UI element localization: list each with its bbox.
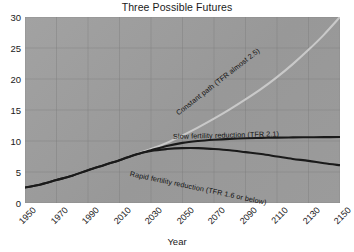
y-axis-tick: 0	[16, 198, 21, 209]
chart-title: Three Possible Futures	[0, 1, 354, 13]
y-axis-tick: 15	[10, 105, 21, 116]
x-axis-title: Year	[0, 236, 354, 247]
x-axis-tick: 1990	[80, 205, 101, 226]
y-axis-tick: 10	[10, 136, 21, 147]
x-axis-tick: 2070	[206, 205, 227, 226]
y-axis-tick: 30	[10, 12, 21, 23]
x-axis-tick: 2010	[111, 205, 132, 226]
x-axis-tick: 2130	[300, 205, 321, 226]
x-axis-tick: 2110	[269, 205, 290, 226]
plot-area: Constant path (TFR almost 2.5) Slow fert…	[25, 17, 340, 203]
x-axis-tick: 2030	[143, 205, 164, 226]
x-axis-tick: 1970	[48, 205, 69, 226]
y-axis-tick: 20	[10, 74, 21, 85]
x-axis-tick: 2090	[237, 205, 258, 226]
x-axis-tick-labels: 1950197019902010203020502070209021102130…	[25, 203, 340, 235]
y-axis-tick: 5	[16, 167, 21, 178]
chart-figure: Three Possible Futures 051015202530 Cons…	[0, 0, 354, 252]
y-axis-tick: 25	[10, 43, 21, 54]
y-axis-tick-labels: 051015202530	[0, 17, 21, 203]
x-axis-tick: 2050	[174, 205, 195, 226]
x-axis-tick: 2150	[332, 205, 353, 226]
